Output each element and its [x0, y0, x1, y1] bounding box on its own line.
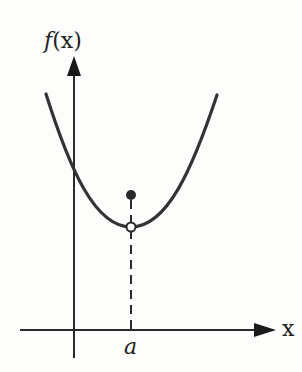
- x-axis-label: x: [282, 318, 294, 340]
- x-axis-arrow-icon: [254, 323, 276, 337]
- filled-dot: [126, 190, 136, 200]
- y-axis-label: f(x): [44, 30, 82, 52]
- y-axis-label-fn: f: [44, 28, 52, 53]
- diagram-canvas: f(x) a x: [0, 0, 302, 372]
- y-axis-arrow-icon: [67, 56, 81, 76]
- open-circle: [127, 223, 136, 232]
- point-a-label: a: [124, 336, 137, 358]
- y-axis-label-arg: (x): [52, 28, 82, 53]
- graph-svg: [0, 0, 302, 372]
